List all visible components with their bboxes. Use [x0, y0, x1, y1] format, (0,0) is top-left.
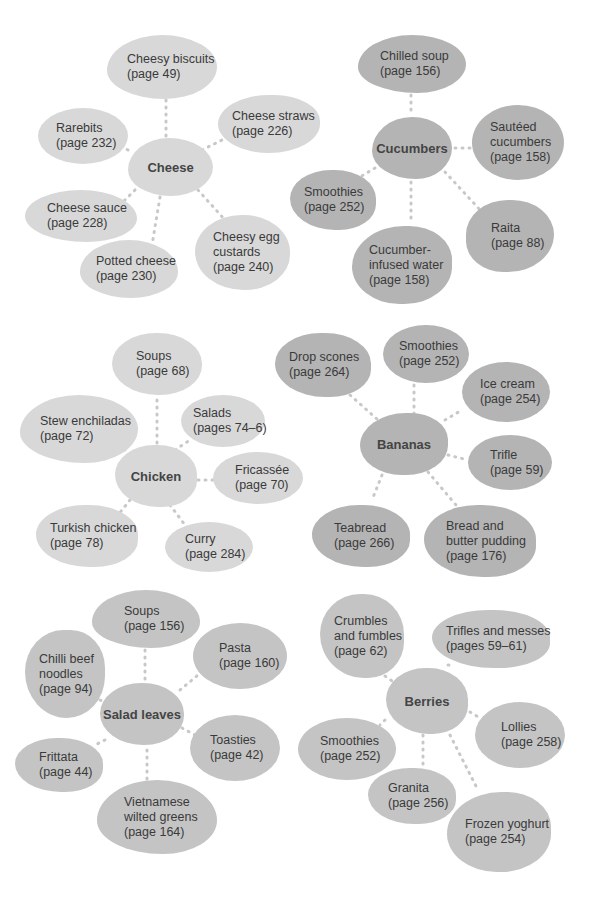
item-page: (page 258)	[501, 735, 565, 750]
item-page: (page 59)	[490, 463, 552, 478]
item-page: (page 72)	[40, 429, 138, 444]
item-name: Cheesy egg	[213, 230, 290, 245]
item-name: Trifle	[490, 448, 552, 463]
item-page: (page 230)	[96, 269, 178, 284]
hub-bananas: Bananas	[360, 413, 448, 475]
item-name: Smoothies	[399, 339, 469, 354]
item-page: (pages 59–61)	[446, 639, 550, 654]
item-page: (page 252)	[304, 200, 376, 215]
item-page: (page 44)	[39, 765, 103, 780]
item-name-cont: noodles	[39, 667, 105, 682]
hub-label: Salad leaves	[103, 707, 181, 722]
node-granita[interactable]: Granita (page 256)	[368, 768, 456, 824]
node-cheesy-biscuits[interactable]: Cheesy biscuits (page 49)	[107, 35, 217, 99]
hub-chicken: Chicken	[115, 445, 197, 507]
item-name: Turkish chicken	[50, 521, 138, 536]
item-page: (pages 74–6)	[193, 421, 265, 436]
item-page: (page 252)	[320, 749, 396, 764]
node-turkish-chicken[interactable]: Turkish chicken (page 78)	[36, 505, 138, 567]
node-trifle[interactable]: Trifle (page 59)	[468, 435, 552, 490]
item-name-cont: custards	[213, 245, 290, 260]
item-name: Raita	[491, 221, 554, 236]
node-teabread[interactable]: Teabread (page 266)	[312, 505, 410, 567]
item-name: Chilli beef	[39, 652, 105, 667]
item-name-cont: and fumbles	[334, 629, 404, 644]
node-cucumber-infused-water[interactable]: Cucumber- infused water (page 158)	[352, 226, 452, 304]
item-page: (page 226)	[232, 124, 320, 139]
item-name: Lollies	[501, 720, 565, 735]
hub-salad-leaves: Salad leaves	[100, 683, 184, 745]
hub-label: Bananas	[377, 437, 431, 452]
node-drop-scones[interactable]: Drop scones (page 264)	[275, 333, 371, 397]
item-page: (page 228)	[47, 216, 137, 231]
node-chilled-soup[interactable]: Chilled soup (page 156)	[358, 35, 466, 93]
node-cheese-straws[interactable]: Cheese straws (page 226)	[218, 95, 320, 153]
node-smoothies-banana[interactable]: Smoothies (page 252)	[383, 325, 469, 383]
node-salads[interactable]: Salads (pages 74–6)	[181, 395, 265, 447]
item-name: Sautéed	[490, 120, 564, 135]
item-page: (page 232)	[56, 136, 128, 151]
node-salad-soups[interactable]: Soups (page 156)	[92, 590, 200, 648]
item-name: Cheese sauce	[47, 201, 137, 216]
node-trifles-and-messes[interactable]: Trifles and messes (pages 59–61)	[432, 610, 550, 668]
item-name: Ice cream	[480, 377, 550, 392]
item-page: (page 158)	[369, 273, 452, 288]
hub-berries: Berries	[386, 668, 468, 734]
item-name: Frozen yoghurt	[465, 817, 551, 832]
item-name: Soups	[124, 604, 200, 619]
node-potted-cheese[interactable]: Potted cheese (page 230)	[80, 240, 178, 298]
item-page: (page 266)	[334, 536, 410, 551]
item-page: (page 264)	[289, 365, 371, 380]
item-page: (page 42)	[210, 748, 280, 763]
item-name: Bread and	[446, 519, 536, 534]
item-page: (page 78)	[50, 536, 138, 551]
item-page: (page 254)	[465, 832, 551, 847]
item-page: (page 254)	[480, 392, 550, 407]
node-fricassee[interactable]: Fricassée (page 70)	[213, 452, 303, 504]
item-name: Pasta	[219, 641, 287, 656]
item-page: (page 156)	[380, 64, 466, 79]
item-name: Smoothies	[304, 185, 376, 200]
node-lollies[interactable]: Lollies (page 258)	[475, 702, 565, 768]
item-page: (page 62)	[334, 644, 404, 659]
node-bread-and-butter-pudding[interactable]: Bread and butter pudding (page 176)	[424, 505, 536, 577]
item-name-cont: infused water	[369, 258, 452, 273]
item-name: Smoothies	[320, 734, 396, 749]
hub-cheese: Cheese	[128, 138, 213, 196]
item-page: (page 94)	[39, 682, 105, 697]
item-page: (page 176)	[446, 549, 536, 564]
item-name: Toasties	[210, 733, 280, 748]
node-frittata[interactable]: Frittata (page 44)	[15, 738, 103, 792]
node-chilli-beef-noodles[interactable]: Chilli beef noodles (page 94)	[25, 630, 105, 718]
item-page: (page 70)	[235, 478, 303, 493]
node-crumbles-and-fumbles[interactable]: Crumbles and fumbles (page 62)	[320, 594, 404, 678]
item-name: Teabread	[334, 521, 410, 536]
node-vietnamese-wilted-greens[interactable]: Vietnamese wilted greens (page 164)	[97, 780, 217, 854]
item-name: Fricassée	[235, 463, 303, 478]
item-name: Rarebits	[56, 121, 128, 136]
node-smoothies-cucumber[interactable]: Smoothies (page 252)	[290, 170, 376, 230]
item-page: (page 88)	[491, 236, 554, 251]
item-page: (page 160)	[219, 656, 287, 671]
node-ice-cream[interactable]: Ice cream (page 254)	[462, 362, 550, 422]
node-frozen-yoghurt[interactable]: Frozen yoghurt (page 254)	[447, 792, 551, 872]
node-curry[interactable]: Curry (page 284)	[165, 522, 253, 572]
item-name: Cucumber-	[369, 243, 452, 258]
node-pasta[interactable]: Pasta (page 160)	[193, 623, 287, 689]
node-chicken-soups[interactable]: Soups (page 68)	[112, 333, 202, 395]
item-name: Granita	[388, 781, 456, 796]
node-sauteed-cucumbers[interactable]: Sautéed cucumbers (page 158)	[472, 105, 564, 180]
item-page: (page 284)	[185, 547, 253, 562]
hub-label: Cucumbers	[376, 141, 448, 156]
node-rarebits[interactable]: Rarebits (page 232)	[38, 108, 128, 164]
item-name: Vietnamese	[124, 795, 217, 810]
item-page: (page 158)	[490, 150, 564, 165]
node-cheesy-egg-custards[interactable]: Cheesy egg custards (page 240)	[195, 215, 290, 290]
node-cheese-sauce[interactable]: Cheese sauce (page 228)	[25, 190, 137, 242]
item-name: Trifles and messes	[446, 624, 550, 639]
node-toasties[interactable]: Toasties (page 42)	[190, 715, 280, 781]
node-smoothies-berries[interactable]: Smoothies (page 252)	[298, 718, 396, 780]
hub-label: Berries	[405, 694, 450, 709]
node-stew-enchiladas[interactable]: Stew enchiladas (page 72)	[20, 395, 138, 463]
item-name: Stew enchiladas	[40, 414, 138, 429]
